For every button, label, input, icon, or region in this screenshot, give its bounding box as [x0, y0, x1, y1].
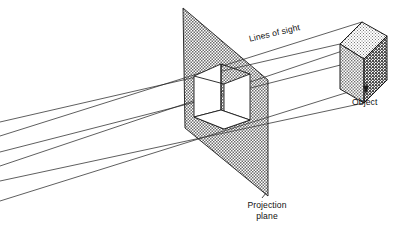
projection-diagram	[0, 0, 397, 225]
object-label: Object	[352, 97, 377, 107]
line-of-sight-3	[0, 59, 364, 152]
plane-leader-line	[262, 193, 266, 198]
line-of-sight-5	[0, 103, 364, 181]
projection-plane-label-line1: Projection	[236, 200, 298, 211]
line-of-sight-2	[0, 22, 362, 136]
projection-plane	[0, 8, 387, 201]
projection-plane-label-line2: plane	[236, 211, 298, 222]
object-box	[340, 22, 387, 103]
projection-plane-label: Projection plane	[236, 200, 298, 221]
figure-canvas: Lines of sight Object Projection plane	[0, 0, 397, 225]
